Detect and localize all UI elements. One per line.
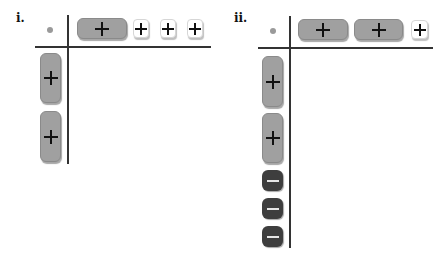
panel-label: i. [16,11,25,25]
plus-icon [266,75,280,89]
unit-tile-minus[interactable] [262,170,283,191]
minus-icon [267,235,279,239]
plus-icon [266,131,280,145]
vertical-axis-line [67,15,69,164]
x-tile-plus[interactable] [77,18,127,39]
minus-icon [267,179,279,183]
horizontal-axis-line [258,47,433,49]
plus-icon [414,24,426,36]
unit-tile-plus[interactable] [411,20,428,39]
unit-tile-minus[interactable] [262,226,283,247]
x-tile-plus[interactable] [298,19,348,40]
plus-icon [372,23,386,37]
x-tile-plus[interactable] [40,53,61,103]
unit-tile-plus[interactable] [133,19,149,38]
plus-icon [44,130,58,144]
horizontal-axis-line [35,46,211,48]
minus-icon [267,207,279,211]
unit-tile-plus[interactable] [187,19,203,38]
plus-icon [95,22,109,36]
plus-icon [44,71,58,85]
corner-dot-icon [47,27,53,33]
panel-label: ii. [234,11,247,25]
plus-icon [189,23,201,35]
x-tile-plus[interactable] [262,56,283,107]
plus-icon [316,23,330,37]
unit-tile-minus[interactable] [262,198,283,219]
x-tile-plus[interactable] [40,111,61,162]
unit-tile-plus[interactable] [160,19,176,38]
plus-icon [162,23,174,35]
x-tile-plus[interactable] [354,19,403,40]
corner-dot-icon [270,28,276,34]
plus-icon [135,23,147,35]
vertical-axis-line [289,16,291,248]
x-tile-plus[interactable] [262,113,283,163]
